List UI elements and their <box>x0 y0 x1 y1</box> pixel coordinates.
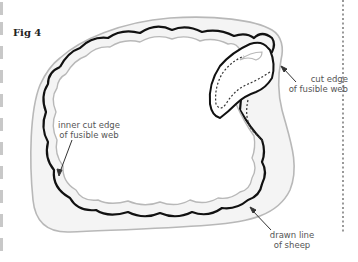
annotation-drawn-line: drawn line of sheep <box>262 230 322 250</box>
sheep-fusible-web-diagram <box>0 0 358 262</box>
annotation-drawn-line-line1: drawn line <box>262 230 322 240</box>
annotation-inner-cut-edge-line2: of fusible web <box>56 130 122 140</box>
annotation-inner-cut-edge: inner cut edge of fusible web <box>56 120 122 140</box>
annotation-inner-cut-edge-line1: inner cut edge <box>56 120 122 130</box>
annotation-cut-edge: cut edge of fusible web <box>282 74 348 94</box>
annotation-drawn-line-line2: of sheep <box>262 240 322 250</box>
annotation-cut-edge-line1: cut edge <box>282 74 348 84</box>
annotation-cut-edge-line2: of fusible web <box>282 84 348 94</box>
